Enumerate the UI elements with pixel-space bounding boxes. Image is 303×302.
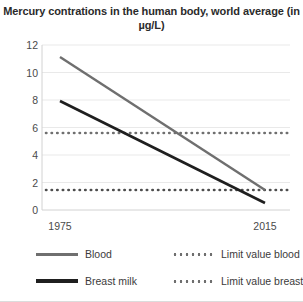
legend-item-limit-value-breast-milk[interactable]: Limit value breast milk (172, 275, 303, 287)
gridlines (42, 45, 290, 183)
x-tick-2015: 2015 (253, 220, 276, 232)
legend-item-blood[interactable]: Blood (36, 248, 112, 260)
legend-swatch-dotted-icon (172, 253, 214, 256)
chart-svg (0, 38, 303, 238)
x-axis-tick-labels: 1975 2015 (0, 220, 303, 240)
series-line-breast-milk (60, 101, 265, 203)
legend-label-blood: Blood (85, 248, 112, 260)
legend-swatch-dotted-icon (172, 280, 214, 283)
legend-swatch-line-icon (36, 253, 78, 256)
chart-legend: Blood Limit value blood Breast milk Limi… (0, 242, 303, 302)
legend-label-limit-value-blood: Limit value blood (221, 248, 300, 260)
legend-item-limit-value-blood[interactable]: Limit value blood (172, 248, 300, 260)
legend-item-breast-milk[interactable]: Breast milk (36, 275, 137, 287)
series-line-blood (60, 57, 265, 190)
legend-label-breast-milk: Breast milk (85, 275, 137, 287)
chart-title: Mercury contrations in the human body, w… (0, 4, 303, 32)
legend-label-limit-value-breast-milk: Limit value breast milk (221, 275, 303, 287)
legend-swatch-line-icon (36, 279, 78, 283)
plot-area: 12 10 8 6 4 2 0 (0, 38, 303, 238)
chart-container: Mercury contrations in the human body, w… (0, 0, 303, 302)
x-tick-1975: 1975 (48, 220, 71, 232)
